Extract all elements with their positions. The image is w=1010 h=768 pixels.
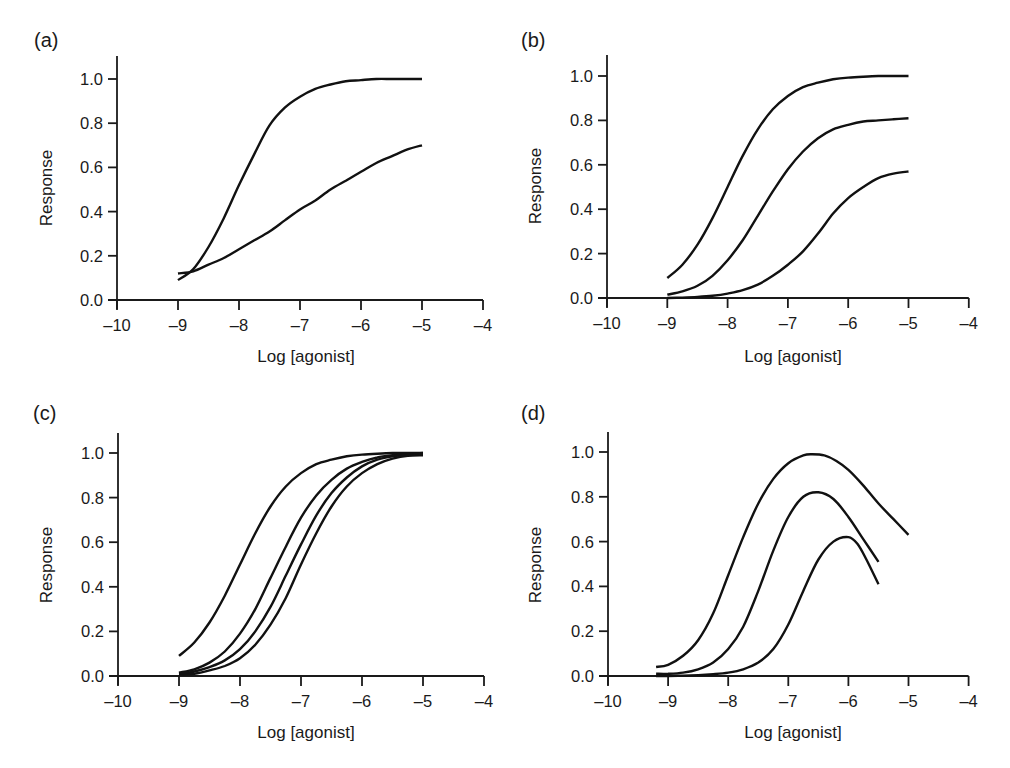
x-tick-label: –5 bbox=[899, 314, 917, 332]
y-axis-title: Response bbox=[37, 527, 56, 604]
x-tick-label: –8 bbox=[719, 692, 737, 710]
y-tick-label: 0.6 bbox=[80, 158, 103, 176]
x-tick-label: –5 bbox=[899, 692, 917, 710]
y-axis-title: Response bbox=[526, 527, 545, 604]
x-tick-label: –6 bbox=[352, 316, 370, 334]
y-tick-label: 0.6 bbox=[81, 533, 104, 551]
x-tick-label: –7 bbox=[292, 692, 310, 710]
response-curve-curve-1 bbox=[667, 76, 908, 278]
response-curve-curve-1 bbox=[178, 79, 422, 280]
response-curve-curve-4 bbox=[179, 455, 423, 675]
y-tick-label: 0.4 bbox=[571, 577, 594, 595]
x-tick-label: –7 bbox=[779, 314, 797, 332]
x-tick-label: –4 bbox=[474, 316, 492, 334]
y-tick-label: 1.0 bbox=[81, 444, 104, 462]
y-tick-label: 0.0 bbox=[80, 291, 103, 309]
y-tick-label: 0.0 bbox=[81, 667, 104, 685]
curves bbox=[667, 76, 908, 298]
y-tick-label: 0.8 bbox=[570, 111, 593, 129]
response-curve-curve-2 bbox=[667, 118, 908, 295]
x-tick-label: –4 bbox=[959, 692, 977, 710]
axes: 0.00.20.40.60.81.0–10–9–8–7–6–5–4 bbox=[80, 56, 492, 334]
response-curve-curve-2 bbox=[656, 492, 878, 674]
x-axis-title: Log [agonist] bbox=[257, 723, 354, 742]
y-tick-label: 0.8 bbox=[80, 114, 103, 132]
x-tick-label: –9 bbox=[659, 692, 677, 710]
x-tick-label: –8 bbox=[718, 314, 736, 332]
panel-c: (c) Response Log [agonist] 0.00.20.40.60… bbox=[33, 402, 493, 742]
panel-b: (b) Response Log [agonist] 0.00.20.40.60… bbox=[521, 29, 978, 366]
x-tick-label: –6 bbox=[353, 692, 371, 710]
panel-label: (c) bbox=[33, 402, 56, 424]
x-tick-label: –6 bbox=[839, 692, 857, 710]
y-tick-label: 0.8 bbox=[81, 489, 104, 507]
curves bbox=[656, 454, 908, 676]
y-tick-label: 1.0 bbox=[80, 70, 103, 88]
x-tick-label: –7 bbox=[779, 692, 797, 710]
y-tick-label: 0.0 bbox=[571, 667, 594, 685]
y-tick-label: 1.0 bbox=[571, 443, 594, 461]
y-tick-label: 0.2 bbox=[81, 622, 104, 640]
x-tick-label: –9 bbox=[658, 314, 676, 332]
panel-d: (d) Response Log [agonist] 0.00.20.40.60… bbox=[521, 402, 978, 742]
x-tick-label: –4 bbox=[960, 314, 978, 332]
x-tick-label: –10 bbox=[103, 316, 131, 334]
y-tick-label: 0.2 bbox=[80, 247, 103, 265]
x-tick-label: –8 bbox=[231, 692, 249, 710]
x-tick-label: –5 bbox=[414, 692, 432, 710]
x-tick-label: –6 bbox=[839, 314, 857, 332]
x-tick-label: –5 bbox=[413, 316, 431, 334]
y-tick-label: 0.8 bbox=[571, 488, 594, 506]
y-tick-label: 0.0 bbox=[570, 289, 593, 307]
response-curve-curve-1 bbox=[179, 453, 423, 656]
y-tick-label: 0.2 bbox=[571, 622, 594, 640]
x-tick-label: –7 bbox=[291, 316, 309, 334]
panel-label: (d) bbox=[521, 402, 545, 424]
y-tick-label: 0.2 bbox=[570, 245, 593, 263]
x-axis-title: Log [agonist] bbox=[744, 723, 841, 742]
axes: 0.00.20.40.60.81.0–10–9–8–7–6–5–4 bbox=[570, 55, 978, 332]
curves bbox=[178, 79, 422, 280]
x-tick-label: –9 bbox=[170, 692, 188, 710]
axes: 0.00.20.40.60.81.0–10–9–8–7–6–5–4 bbox=[571, 432, 978, 710]
x-tick-label: –8 bbox=[230, 316, 248, 334]
y-tick-label: 0.6 bbox=[570, 156, 593, 174]
y-axis-title: Response bbox=[37, 150, 56, 227]
panel-a: (a) Response Log [agonist] 0.00.20.40.60… bbox=[34, 29, 492, 366]
response-curve-curve-3 bbox=[656, 537, 878, 676]
x-axis-title: Log [agonist] bbox=[257, 347, 354, 366]
y-tick-label: 0.4 bbox=[80, 203, 103, 221]
figure-canvas: (a) Response Log [agonist] 0.00.20.40.60… bbox=[0, 0, 1010, 768]
x-axis-title: Log [agonist] bbox=[744, 347, 841, 366]
x-tick-label: –9 bbox=[169, 316, 187, 334]
x-tick-label: –10 bbox=[594, 692, 622, 710]
panel-label: (a) bbox=[34, 29, 58, 51]
response-curve-curve-2 bbox=[178, 145, 422, 273]
curves bbox=[179, 453, 423, 675]
y-tick-label: 0.4 bbox=[81, 578, 104, 596]
x-tick-label: –10 bbox=[104, 692, 132, 710]
y-axis-title: Response bbox=[526, 148, 545, 225]
x-tick-label: –10 bbox=[593, 314, 621, 332]
panel-label: (b) bbox=[521, 29, 545, 51]
x-tick-label: –4 bbox=[475, 692, 493, 710]
y-tick-label: 0.6 bbox=[571, 533, 594, 551]
y-tick-label: 1.0 bbox=[570, 67, 593, 85]
y-tick-label: 0.4 bbox=[570, 200, 593, 218]
